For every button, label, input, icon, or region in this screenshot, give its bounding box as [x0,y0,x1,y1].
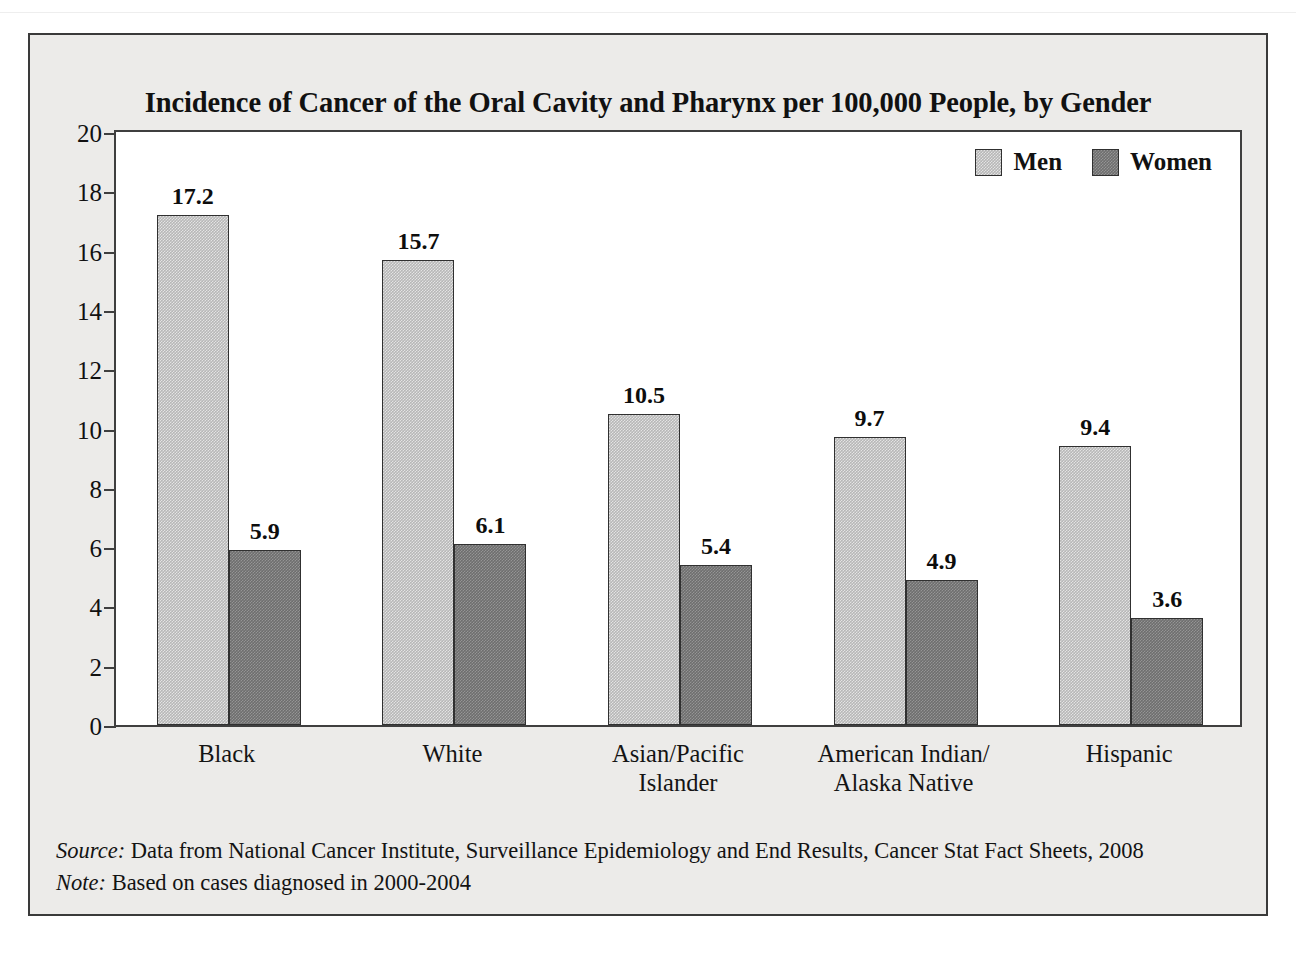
bar-value-label: 9.7 [820,405,920,432]
y-axis-tick-label: 16 [42,239,102,267]
bar-value-label: 6.1 [440,512,540,539]
footnote-note-label: Note: [56,870,106,895]
bar-value-label: 3.6 [1117,586,1217,613]
bar-men[interactable] [608,414,680,725]
footnote-source-label: Source: [56,838,125,863]
footnote-source: Source: Data from National Cancer Instit… [56,835,1236,867]
y-axis-tick-mark [104,726,116,728]
running-head-rule [0,12,1296,13]
y-axis-tick-mark [104,667,116,669]
y-axis-tick-label: 10 [42,417,102,445]
y-axis-tick-label: 18 [42,179,102,207]
y-axis-tick-mark [104,370,116,372]
bar-men[interactable] [157,215,229,725]
y-axis-tick-mark [104,192,116,194]
y-axis-tick-mark [104,607,116,609]
y-axis-tick-mark [104,252,116,254]
legend-label-men: Men [1013,148,1062,176]
y-axis-tick-label: 14 [42,298,102,326]
plot-area: 02468101214161820 17.25.915.76.110.55.49… [114,130,1242,727]
y-axis-tick-label: 8 [42,476,102,504]
plot-inner: 02468101214161820 17.25.915.76.110.55.49… [116,132,1240,725]
bar-value-label: 10.5 [594,382,694,409]
bar-value-label: 15.7 [368,228,468,255]
footnote-note: Note: Based on cases diagnosed in 2000-2… [56,867,1236,899]
y-axis-tick-label: 0 [42,713,102,741]
bar-women[interactable] [229,550,301,725]
footnote-note-text: Based on cases diagnosed in 2000-2004 [106,870,471,895]
bar-value-label: 5.4 [666,533,766,560]
legend-entry-women[interactable]: Women [1092,148,1212,176]
chart-figure: Incidence of Cancer of the Oral Cavity a… [28,33,1268,916]
bar-men[interactable] [382,260,454,726]
y-axis-tick-mark [104,430,116,432]
y-axis-tick-label: 4 [42,594,102,622]
chart-legend: Men Women [975,148,1212,176]
page-running-head [0,0,1296,14]
legend-swatch-women-icon [1092,149,1119,176]
figure-footnotes: Source: Data from National Cancer Instit… [56,835,1236,899]
bar-women[interactable] [454,544,526,725]
chart-title: Incidence of Cancer of the Oral Cavity a… [30,87,1266,119]
y-axis-tick-mark [104,311,116,313]
bar-women[interactable] [680,565,752,725]
y-axis-tick-label: 6 [42,535,102,563]
bar-value-label: 9.4 [1045,414,1145,441]
bar-value-label: 5.9 [215,518,315,545]
legend-swatch-men-icon [975,149,1002,176]
y-axis-tick-mark [104,548,116,550]
bar-women[interactable] [1131,618,1203,725]
bar-value-label: 4.9 [892,548,992,575]
bar-men[interactable] [834,437,906,725]
legend-entry-men[interactable]: Men [975,148,1062,176]
footnote-source-text: Data from National Cancer Institute, Sur… [125,838,1144,863]
bar-value-label: 17.2 [143,183,243,210]
x-axis-category-line: Alaska Native [761,769,1047,798]
bar-women[interactable] [906,580,978,725]
y-axis-tick-label: 2 [42,654,102,682]
legend-label-women: Women [1130,148,1212,176]
y-axis-tick-label: 12 [42,357,102,385]
x-axis-category-label: Hispanic [986,740,1272,769]
y-axis-tick-label: 20 [42,120,102,148]
y-axis-tick-mark [104,489,116,491]
x-axis-category-line: Hispanic [986,740,1272,769]
y-axis-tick-mark [104,133,116,135]
